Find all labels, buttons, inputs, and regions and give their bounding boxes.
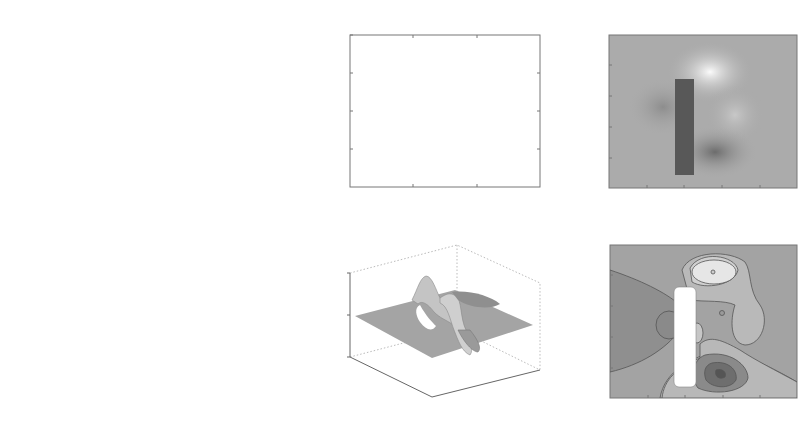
nan-region [675,79,694,175]
subplot-image [580,20,810,220]
plot-area [350,35,540,187]
nan-region [674,287,696,387]
subplot-line-plot [310,20,560,230]
subplot-contour [580,230,810,438]
subplot-surface [310,240,570,438]
